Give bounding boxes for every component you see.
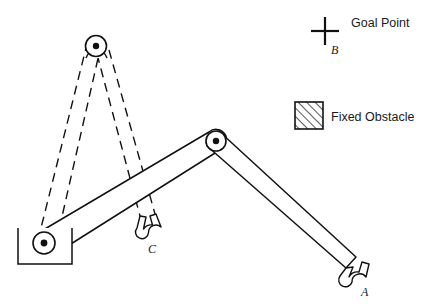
legend-item-fixed-obstacle: Fixed Obstacle <box>295 102 414 129</box>
hatched-square-icon <box>295 102 323 129</box>
legend-label-goal-point: Goal Point <box>351 16 410 30</box>
base-joint-center-dot <box>41 240 48 247</box>
dashed-elbow-center-dot <box>93 43 99 49</box>
robot-arm-diagram: C A B Goal Point <box>0 0 433 306</box>
end-effector-C <box>136 214 161 239</box>
legend-label-fixed-obstacle: Fixed Obstacle <box>331 110 414 124</box>
legend-item-goal-point: B Goal Point <box>311 16 410 57</box>
goal-point-label: B <box>331 43 339 57</box>
elbow-joint-center-dot <box>213 138 219 144</box>
end-effector-A-label: A <box>360 285 369 299</box>
end-effector-C-label: C <box>148 242 157 256</box>
current-configuration-solid: A <box>30 129 369 299</box>
base-mount <box>18 228 72 264</box>
forearm-link <box>206 132 356 268</box>
